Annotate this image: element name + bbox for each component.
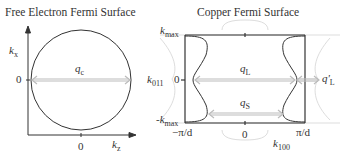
qL-arrow	[195, 76, 295, 84]
left-y-zero: 0	[16, 73, 22, 85]
fermi-sphere	[31, 30, 131, 130]
qc-label: qc	[75, 62, 84, 77]
qL-label: qL	[240, 62, 250, 77]
kmax-top: kmax	[160, 24, 179, 39]
y-axis-label: kx	[9, 44, 18, 59]
right-y-zero: 0	[174, 73, 180, 85]
qS-label: qS	[240, 96, 250, 111]
left-axes	[26, 26, 137, 138]
qLp-label: q'L	[322, 72, 335, 87]
qLp-arrow	[297, 76, 319, 84]
qS-arrow	[209, 110, 283, 118]
k100-label: k100	[273, 137, 290, 152]
x-left-tick: −π/d	[172, 126, 192, 138]
left-x-zero: 0	[78, 140, 84, 152]
x-right-tick: π/d	[296, 126, 310, 138]
x-axis-label: kz	[112, 138, 120, 153]
left-title: Free Electron Fermi Surface	[5, 6, 136, 18]
k011-label: k011	[147, 73, 164, 88]
right-x-zero: 0	[242, 128, 248, 140]
right-title: Copper Fermi Surface	[197, 6, 299, 18]
qc-arrow	[32, 76, 130, 84]
figure: Free Electron Fermi Surface kx 0 0 kz qc…	[0, 0, 350, 158]
